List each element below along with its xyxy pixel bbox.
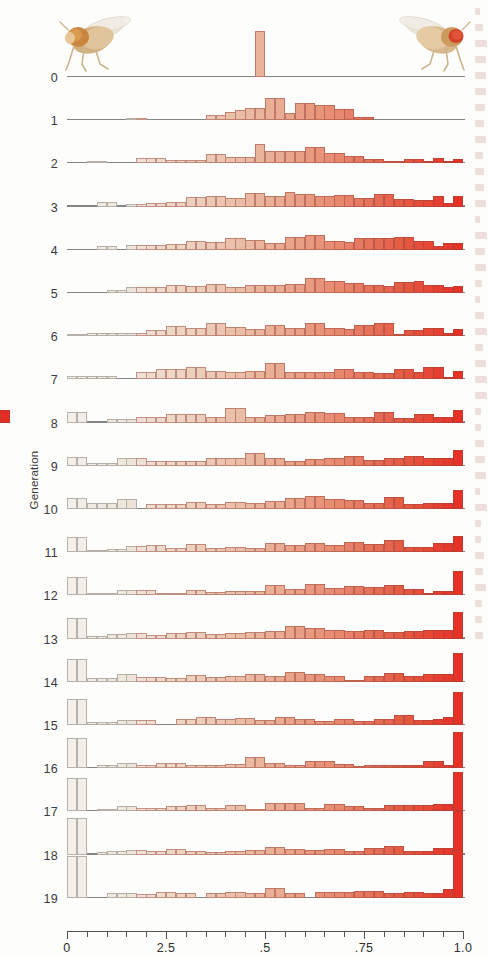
margin-artifact-line	[475, 472, 486, 479]
histogram-bar	[315, 235, 325, 250]
histogram-bar	[334, 328, 344, 336]
histogram-bar	[126, 806, 136, 812]
histogram-bar	[146, 545, 156, 552]
histogram-bar	[374, 460, 384, 466]
histogram-bar	[364, 808, 374, 812]
histogram-bar	[117, 763, 127, 769]
histogram-bar	[374, 848, 384, 854]
histogram-bar	[156, 808, 166, 812]
histogram-bar	[364, 460, 374, 466]
generation-row-label: 16	[34, 762, 58, 776]
histogram-bar	[354, 586, 364, 595]
x-axis-tick-label: .75	[355, 941, 373, 955]
histogram-bar	[344, 500, 354, 509]
histogram-bar	[285, 113, 295, 120]
histogram-bar	[255, 720, 265, 725]
x-axis-tick	[443, 931, 444, 937]
histogram-bar	[146, 808, 156, 812]
histogram-bar	[176, 548, 186, 553]
histogram-bar	[176, 202, 186, 207]
histogram-bar	[404, 805, 414, 811]
histogram-bar	[216, 323, 226, 336]
histogram-bar	[384, 412, 394, 422]
generation-row-label: 10	[34, 503, 58, 517]
histogram-bar	[225, 502, 235, 509]
histogram-bar	[275, 847, 285, 854]
histogram-bar	[156, 417, 166, 423]
histogram-bar	[97, 333, 107, 336]
histogram-bar	[216, 154, 226, 163]
generation-row-label: 19	[34, 892, 58, 906]
histogram-bar	[206, 592, 216, 596]
histogram-bar	[206, 284, 216, 293]
histogram-bar	[216, 893, 226, 898]
histogram-bar	[146, 158, 156, 164]
histogram-bar	[146, 635, 156, 639]
histogram-bar	[295, 803, 305, 811]
histogram-bar	[176, 678, 186, 682]
histogram-bar	[156, 330, 166, 336]
histogram-bar	[176, 893, 186, 898]
histogram-bar	[126, 245, 136, 250]
margin-artifact-line	[475, 632, 483, 639]
histogram-bar	[384, 846, 394, 854]
histogram-bar	[295, 719, 305, 725]
histogram-bar	[394, 334, 404, 336]
histogram-bar	[136, 894, 146, 898]
histogram-bar	[136, 590, 146, 596]
x-axis-tick	[384, 931, 385, 937]
histogram-bar	[433, 417, 443, 423]
histogram-bar	[364, 198, 374, 206]
histogram-bar	[206, 852, 216, 855]
histogram-bar	[453, 850, 463, 898]
histogram-bar	[324, 545, 334, 552]
histogram-bar	[176, 285, 186, 293]
histogram-bar	[245, 893, 255, 898]
histogram-bar	[285, 151, 295, 164]
histogram-bar	[315, 412, 325, 423]
histogram-bar	[216, 115, 226, 121]
histogram-bar	[225, 287, 235, 293]
histogram-bar	[364, 630, 374, 638]
histogram-bar	[265, 458, 275, 466]
histogram-bar	[117, 893, 127, 898]
histogram-bar	[245, 674, 255, 681]
histogram-bar	[414, 414, 424, 422]
histogram-bar	[235, 502, 245, 509]
histogram-bar	[443, 287, 453, 293]
histogram-bar	[216, 592, 226, 596]
histogram-bar	[344, 369, 354, 379]
histogram-bar	[196, 160, 206, 164]
histogram-bar	[414, 589, 424, 595]
histogram-bar	[225, 458, 235, 466]
generation-row-label: 11	[34, 546, 58, 560]
histogram-bar	[225, 157, 235, 163]
histogram-bar	[136, 245, 146, 250]
histogram-bar	[196, 632, 206, 638]
x-axis-tick-label: 2.5	[157, 941, 175, 955]
histogram-bar	[255, 809, 265, 812]
histogram-bar	[146, 287, 156, 293]
histogram-bar	[136, 204, 146, 207]
histogram-bar	[443, 804, 453, 811]
histogram-bar	[146, 417, 156, 423]
generation-row-label: 9	[34, 460, 58, 474]
x-axis-major-tick	[265, 931, 266, 939]
histogram-bar	[275, 98, 285, 120]
histogram-bar	[315, 196, 325, 206]
histogram-bar	[67, 577, 77, 595]
histogram-bar	[324, 153, 334, 163]
x-axis-major-tick	[364, 931, 365, 939]
histogram-bar	[235, 676, 245, 682]
histogram-bar	[354, 117, 364, 120]
histogram-bar	[453, 612, 463, 639]
histogram-bar	[443, 503, 453, 509]
histogram-bar	[186, 241, 196, 250]
histogram-bar	[443, 591, 453, 596]
histogram-bar	[67, 376, 77, 380]
histogram-bar	[354, 417, 364, 423]
histogram-bar	[334, 109, 344, 120]
histogram-bar	[344, 892, 354, 898]
histogram-bar	[285, 893, 295, 898]
histogram-bar	[87, 333, 97, 336]
